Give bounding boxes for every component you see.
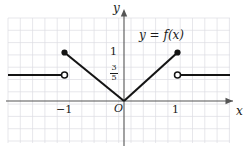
graph-canvas (0, 0, 248, 151)
open-point-left (62, 72, 68, 78)
fraction-numerator: 3 (107, 64, 121, 72)
x-tick-label-one: 1 (172, 104, 179, 115)
right-ascending-branch (124, 53, 178, 102)
y-tick-label-one: 1 (110, 46, 117, 57)
y-value-fraction-three-fifths: 3 5 (107, 64, 121, 83)
y-axis-arrowhead (121, 9, 127, 17)
x-axis-label: x (236, 105, 243, 117)
origin-label: O (114, 103, 123, 114)
fraction-denominator: 5 (107, 74, 121, 82)
filled-point-left (61, 49, 67, 55)
filled-point-right (174, 49, 180, 55)
open-point-right (175, 72, 181, 78)
function-equation-label: y = f(x) (139, 29, 184, 41)
function-graph-figure: y x O −1 1 1 y = f(x) 3 5 (0, 0, 248, 151)
y-axis-label: y (113, 2, 120, 14)
x-tick-label-negative-one: −1 (56, 104, 72, 115)
